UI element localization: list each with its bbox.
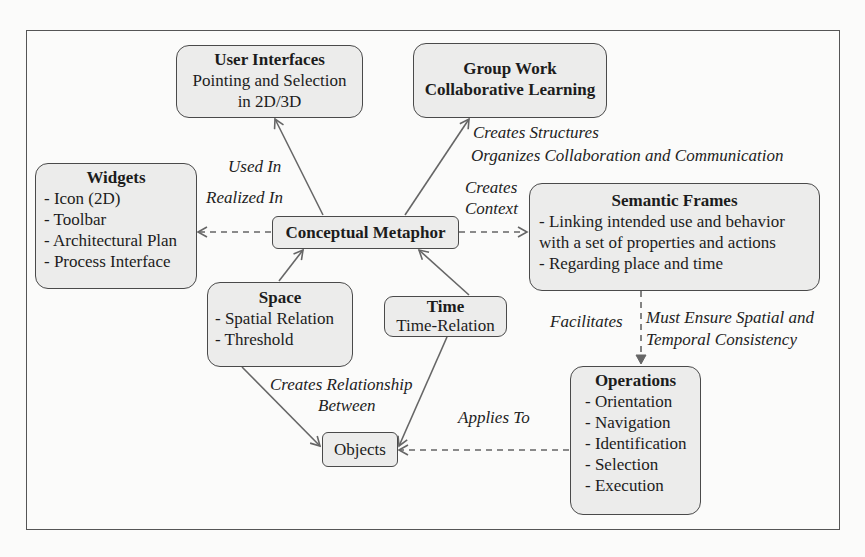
- node-line: - Architectural Plan: [44, 230, 196, 251]
- node-title: Time: [385, 297, 506, 316]
- edge-space-to-metaphor: [279, 250, 303, 281]
- node-group-work: Group Work Collaborative Learning: [413, 43, 607, 118]
- node-line: Pointing and Selection: [177, 70, 362, 91]
- node-line: Time-Relation: [385, 316, 506, 335]
- node-line: in 2D/3D: [177, 91, 362, 112]
- label-must-ensure-2: Temporal Consistency: [646, 329, 797, 350]
- node-title: Space: [208, 287, 352, 308]
- node-conceptual-metaphor: Conceptual Metaphor: [272, 216, 459, 249]
- node-title: Semantic Frames: [530, 190, 819, 211]
- node-line: with a set of properties and actions: [539, 232, 819, 253]
- node-title: Objects: [323, 439, 397, 460]
- label-creates-structures: Creates Structures: [473, 122, 599, 143]
- node-line: - Execution: [585, 475, 700, 496]
- node-operations: Operations - Orientation - Navigation - …: [570, 366, 701, 515]
- node-line: - Orientation: [585, 391, 700, 412]
- label-must-ensure-1: Must Ensure Spatial and: [646, 307, 814, 328]
- node-widgets: Widgets - Icon (2D) - Toolbar - Architec…: [35, 163, 197, 289]
- node-time: Time Time-Relation: [384, 296, 507, 337]
- label-creates-context-2: Context: [465, 198, 518, 219]
- node-line: - Threshold: [215, 329, 352, 350]
- label-realized-in: Realized In: [206, 187, 283, 208]
- node-subtitle: Collaborative Learning: [414, 79, 606, 100]
- label-creates-context-1: Creates: [465, 177, 517, 198]
- node-objects: Objects: [322, 432, 398, 467]
- node-line: - Process Interface: [44, 251, 196, 272]
- label-creates-relationship-1: Creates Relationship: [270, 374, 412, 395]
- edge-time-to-metaphor: [419, 250, 469, 295]
- label-creates-relationship-2: Between: [318, 395, 376, 416]
- node-line: - Selection: [585, 454, 700, 475]
- node-line: - Linking intended use and behavior: [539, 211, 819, 232]
- node-space: Space - Spatial Relation - Threshold: [207, 282, 353, 367]
- node-line: - Regarding place and time: [539, 253, 819, 274]
- label-facilitates: Facilitates: [550, 311, 623, 332]
- node-title: Conceptual Metaphor: [273, 222, 458, 243]
- node-line: - Spatial Relation: [215, 308, 352, 329]
- node-title: User Interfaces: [177, 49, 362, 70]
- node-title: Group Work: [414, 58, 606, 79]
- node-line: - Toolbar: [44, 209, 196, 230]
- node-semantic-frames: Semantic Frames - Linking intended use a…: [529, 183, 820, 291]
- node-line: - Navigation: [585, 412, 700, 433]
- label-used-in: Used In: [228, 156, 281, 177]
- node-line: - Icon (2D): [44, 188, 196, 209]
- node-title: Operations: [571, 370, 700, 391]
- label-applies-to: Applies To: [458, 407, 530, 428]
- node-line: - Identification: [585, 433, 700, 454]
- node-user-interfaces: User Interfaces Pointing and Selection i…: [176, 45, 363, 118]
- label-organizes: Organizes Collaboration and Communicatio…: [471, 145, 783, 166]
- edge-creates-structures: [405, 119, 469, 215]
- node-title: Widgets: [36, 167, 196, 188]
